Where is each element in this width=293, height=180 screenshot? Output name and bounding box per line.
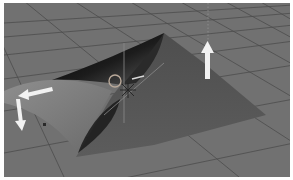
viewport-canvas[interactable]	[4, 3, 290, 177]
3d-viewport[interactable]	[4, 3, 290, 177]
vertex-marker[interactable]	[43, 123, 46, 126]
